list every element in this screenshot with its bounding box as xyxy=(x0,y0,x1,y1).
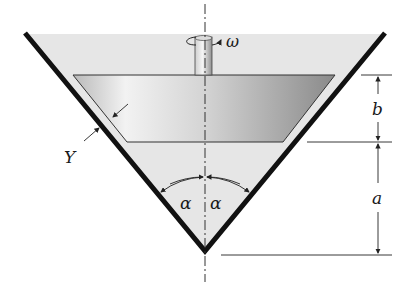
dim-a-label: a xyxy=(372,188,382,208)
shaft xyxy=(195,37,212,75)
gap-label: Y xyxy=(64,147,77,167)
shaft-top xyxy=(195,36,212,41)
gap-arrow-outer xyxy=(84,128,99,141)
alpha-right-label: α xyxy=(210,193,222,213)
viscometer-diagram: ω Y α α b a xyxy=(0,0,409,283)
alpha-left-label: α xyxy=(180,193,192,213)
omega-label: ω xyxy=(226,32,239,51)
dim-b-label: b xyxy=(372,99,383,119)
